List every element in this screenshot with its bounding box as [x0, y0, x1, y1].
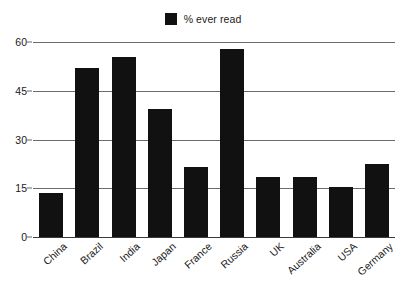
x-axis-label-france: France: [182, 240, 214, 271]
y-axis-tick-label: 30: [15, 134, 27, 145]
x-axis-label-china: China: [41, 240, 69, 267]
bars-group: [33, 42, 395, 237]
x-axis-label-japan: Japan: [148, 240, 177, 268]
legend-swatch-icon: [165, 13, 177, 25]
bar-australia: [293, 177, 317, 237]
x-axis-label-text: China: [41, 240, 69, 267]
bar-france: [184, 167, 208, 237]
x-axis-label-text: France: [182, 240, 214, 271]
chart-legend: % ever read: [0, 10, 406, 28]
x-axis-label-australia: Australia: [284, 240, 322, 276]
y-axis-tick-label: 60: [15, 37, 27, 48]
bar-china: [39, 193, 63, 237]
bar-uk: [256, 177, 280, 237]
bar-japan: [148, 109, 172, 237]
x-axis-label-text: UK: [267, 240, 286, 259]
y-tick-mark: [27, 42, 32, 43]
bar-india: [112, 57, 136, 237]
x-axis-label-text: Brazil: [78, 240, 106, 266]
y-tick-mark: [27, 90, 32, 91]
x-axis-label-russia: Russia: [218, 240, 250, 270]
bar-germany: [365, 164, 389, 237]
x-axis-label-uk: UK: [267, 240, 286, 259]
x-axis-label-usa: USA: [335, 240, 359, 263]
x-axis-label-text: Russia: [218, 240, 250, 270]
x-axis-label-text: India: [117, 240, 142, 264]
legend-label: % ever read: [184, 13, 242, 25]
bar-russia: [220, 49, 244, 238]
x-axis-label-text: Germany: [355, 240, 395, 278]
y-axis-tick-label: 15: [15, 183, 27, 194]
y-tick-mark: [27, 139, 32, 140]
bar-brazil: [75, 68, 99, 237]
x-axis-label-brazil: Brazil: [78, 240, 106, 266]
y-axis-tick-label: 45: [15, 85, 27, 96]
x-axis-label-text: Australia: [284, 240, 322, 276]
x-axis-label-germany: Germany: [355, 240, 395, 278]
plot-area: 604530150: [33, 42, 395, 237]
y-tick-mark: [27, 237, 32, 238]
y-axis-tick-label: 0: [21, 232, 27, 243]
x-axis-label-text: USA: [335, 240, 359, 263]
bar-usa: [329, 187, 353, 237]
x-axis-labels: ChinaBrazilIndiaJapanFranceRussiaUKAustr…: [33, 238, 395, 292]
y-tick-mark: [27, 188, 32, 189]
x-axis-label-india: India: [117, 240, 142, 264]
bar-chart: % ever read 604530150 ChinaBrazilIndiaJa…: [0, 0, 406, 292]
x-axis-label-text: Japan: [148, 240, 177, 268]
